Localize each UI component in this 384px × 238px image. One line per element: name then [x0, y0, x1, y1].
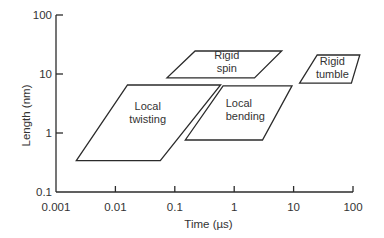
x-axis-title: Time (µs)	[184, 218, 233, 230]
rigid-tumble-label: Rigid	[320, 55, 345, 67]
chart: LocaltwistingLocalbendingRigidspinRigidt…	[0, 0, 384, 238]
rigid-tumble-label: tumble	[316, 68, 349, 80]
y-tick-label: 10	[39, 68, 52, 80]
x-tick-label: 0.01	[104, 201, 126, 213]
y-tick-label: 0.1	[36, 186, 52, 198]
y-ticks: 0.1110100	[33, 9, 63, 198]
local-bending-label: Local	[226, 97, 252, 109]
x-tick-label: 100	[343, 201, 362, 213]
x-tick-label: 1	[231, 201, 237, 213]
rigid-spin-label: spin	[217, 62, 237, 74]
local-twisting-label: Local	[135, 100, 161, 112]
region-rigid-tumble: Rigidtumble	[300, 55, 360, 83]
y-axis-title: Length (nm)	[20, 84, 32, 146]
y-tick-label: 1	[46, 127, 52, 139]
x-tick-label: 0.1	[167, 201, 183, 213]
local-bending-label: bending	[226, 110, 265, 122]
x-ticks: 0.0010.010.1110100	[42, 186, 363, 213]
rigid-spin-label: Rigid	[214, 49, 239, 61]
x-tick-label: 0.001	[42, 201, 71, 213]
x-tick-label: 10	[287, 201, 300, 213]
y-tick-label: 100	[33, 9, 52, 21]
regions-group: LocaltwistingLocalbendingRigidspinRigidt…	[76, 49, 360, 160]
local-twisting-label: twisting	[129, 113, 166, 125]
region-rigid-spin: Rigidspin	[167, 49, 282, 77]
